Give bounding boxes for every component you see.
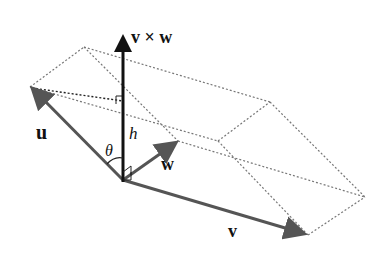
label-v-cross-w: v × w — [131, 28, 172, 46]
label-theta: θ — [105, 143, 113, 159]
label-h: h — [129, 125, 138, 142]
label-u: u — [36, 122, 47, 142]
parallelepiped-diagram: v × w u v w h θ — [0, 0, 383, 253]
diagram-svg — [0, 0, 383, 253]
dashed-edges — [30, 47, 365, 235]
label-w: w — [161, 155, 174, 173]
vector-u — [34, 90, 123, 180]
vector-v — [123, 180, 302, 233]
label-v: v — [228, 222, 237, 240]
